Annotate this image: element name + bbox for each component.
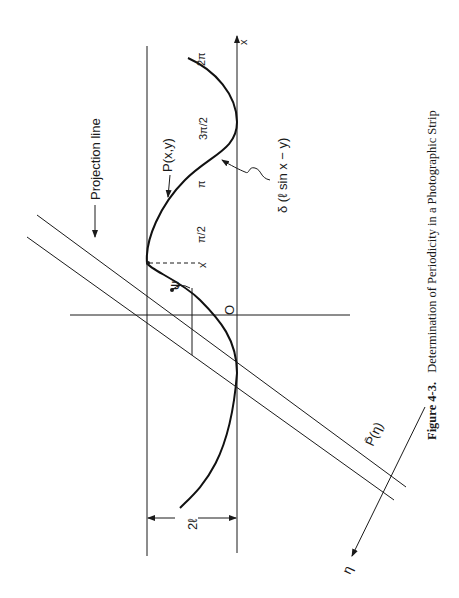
delta-pointer: [222, 160, 270, 180]
delta-label: δ (ℓ sin x − y): [275, 138, 290, 213]
caption-text: Determination of Periodicity in a Photog…: [425, 110, 439, 372]
projection-line-label: Projection line: [88, 118, 103, 200]
sine-curve: [147, 58, 237, 508]
origin-label: O: [222, 305, 237, 315]
figure-caption: Figure 4-3. Determination of Periodicity…: [425, 110, 439, 440]
tick-3pi-2: 3π/2: [197, 117, 209, 140]
x-marker-label: x: [196, 262, 208, 268]
x-axis-label: x: [237, 39, 249, 45]
tick-2pi: 2π: [195, 52, 207, 66]
projection-line-lower: [27, 237, 394, 500]
psi-label: ψ: [167, 281, 182, 290]
periodicity-diagram: Projection line P(x,y) δ (ℓ sin x − y) x…: [0, 0, 459, 598]
tick-pi: π: [195, 180, 207, 188]
projection-function-label: P̄(η): [362, 420, 386, 449]
point-pointer: [168, 175, 170, 197]
eta-axis: [352, 407, 425, 556]
projection-line-upper: [37, 215, 406, 487]
caption-number: Figure 4-3.: [425, 382, 439, 440]
eta-label: η: [339, 563, 356, 576]
tick-pi-2: π/2: [195, 226, 207, 243]
point-label: P(x,y): [160, 138, 175, 172]
peak-point: [146, 261, 150, 265]
width-label: 2ℓ: [185, 518, 200, 530]
